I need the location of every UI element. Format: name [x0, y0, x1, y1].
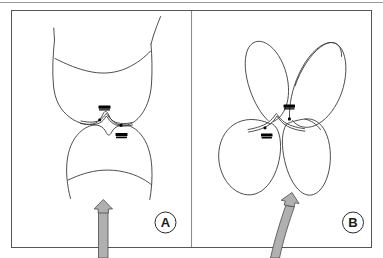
panel-a-upper-dash-marker-shadow: [99, 109, 110, 110]
panel-b-right-dot-marker: [288, 118, 291, 121]
panel-a-arrow-shaft: [99, 212, 109, 258]
panel-a-label: A: [155, 212, 176, 233]
panel-b-lower-dash-marker: [261, 133, 273, 136]
panel-b-upper-dash-marker: [284, 105, 296, 108]
figure-root: A: [0, 0, 383, 258]
panel-a-lower-dash-marker: [116, 133, 128, 136]
panel-b-lower-dash-marker-shadow: [262, 137, 273, 138]
panel-b-left-dot-marker: [264, 126, 267, 129]
panel-a-upper-dash-marker: [99, 106, 111, 109]
panel-b-label-text: B: [348, 215, 357, 230]
panel-a-left-dot-marker: [98, 119, 101, 122]
panel-b-upper-dash-marker-shadow: [284, 108, 295, 109]
panel-a-label-text: A: [161, 215, 171, 230]
panel-a-right-dot-marker: [120, 124, 123, 127]
panel-b-label: B: [343, 212, 364, 233]
figure-canvas: A: [0, 0, 383, 258]
panel-a-lower-dash-marker-shadow: [116, 137, 127, 138]
